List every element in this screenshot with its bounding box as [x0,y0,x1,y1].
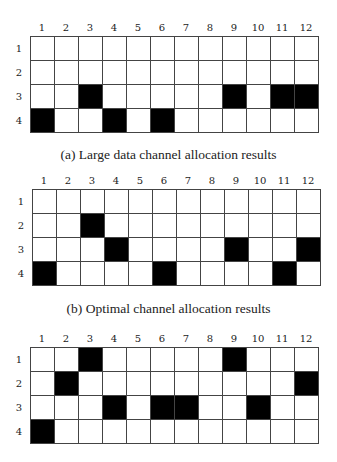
column-label: 10 [248,175,272,187]
empty-cell [57,262,81,286]
empty-cell [177,214,201,238]
empty-cell [79,61,103,85]
column-label: 3 [80,175,104,187]
empty-cell [175,61,199,85]
empty-cell [273,238,297,262]
allocated-cell [297,238,321,262]
empty-cell [177,190,201,214]
column-label: 2 [56,175,80,187]
column-label: 3 [78,333,102,345]
allocated-cell [33,262,57,286]
empty-cell [177,238,201,262]
empty-cell [175,37,199,61]
column-label: 6 [152,175,176,187]
empty-cell [33,190,57,214]
empty-cell [247,420,271,444]
empty-cell [79,109,103,133]
empty-cell [81,190,105,214]
empty-cell [247,61,271,85]
empty-cell [57,214,81,238]
empty-cell [105,214,129,238]
empty-cell [55,109,79,133]
row-label: 1 [12,36,26,60]
row-label: 1 [12,347,26,371]
empty-cell [153,214,177,238]
empty-cell [79,372,103,396]
allocated-cell [79,348,103,372]
row-label: 3 [14,237,28,261]
empty-cell [31,372,55,396]
column-label: 9 [222,22,246,34]
empty-cell [271,109,295,133]
empty-cell [55,37,79,61]
empty-cell [199,61,223,85]
column-label: 3 [78,22,102,34]
empty-cell [31,61,55,85]
empty-cell [55,420,79,444]
empty-cell [249,214,273,238]
empty-cell [103,348,127,372]
empty-cell [271,420,295,444]
empty-cell [57,190,81,214]
empty-cell [223,372,247,396]
empty-cell [297,262,321,286]
empty-cell [129,190,153,214]
empty-cell [129,214,153,238]
column-label: 1 [30,22,54,34]
empty-cell [103,37,127,61]
empty-cell [175,372,199,396]
empty-cell [81,238,105,262]
column-label: 10 [246,22,270,34]
empty-cell [79,396,103,420]
column-label: 1 [30,333,54,345]
empty-cell [223,420,247,444]
row-label: 4 [12,108,26,132]
row-label: 2 [12,371,26,395]
column-labels: 123456789101112 [30,333,318,345]
empty-cell [199,348,223,372]
allocated-cell [223,348,247,372]
empty-cell [201,262,225,286]
column-label: 7 [174,22,198,34]
empty-cell [225,190,249,214]
empty-cell [129,262,153,286]
row-label: 3 [12,395,26,419]
empty-cell [151,37,175,61]
column-label: 12 [294,333,318,345]
caption-a: (a) Large data channel allocation result… [0,147,337,163]
empty-cell [175,109,199,133]
allocated-cell [151,109,175,133]
empty-cell [33,214,57,238]
allocated-cell [31,109,55,133]
empty-cell [151,348,175,372]
empty-cell [199,85,223,109]
empty-cell [55,61,79,85]
empty-cell [273,214,297,238]
allocated-cell [55,372,79,396]
empty-cell [295,396,319,420]
column-label: 5 [126,333,150,345]
allocated-cell [31,420,55,444]
allocated-cell [105,238,129,262]
column-label: 9 [222,333,246,345]
empty-cell [177,262,201,286]
empty-cell [175,348,199,372]
empty-cell [151,372,175,396]
empty-cell [271,61,295,85]
allocated-cell [271,85,295,109]
column-label: 5 [128,175,152,187]
empty-cell [127,37,151,61]
empty-cell [295,109,319,133]
empty-cell [249,262,273,286]
row-label: 2 [14,213,28,237]
empty-cell [295,348,319,372]
allocated-cell [223,85,247,109]
row-labels: 1234 [12,347,26,443]
empty-cell [247,109,271,133]
empty-cell [271,37,295,61]
empty-cell [225,214,249,238]
column-label: 2 [54,333,78,345]
column-label: 5 [126,22,150,34]
empty-cell [249,238,273,262]
column-label: 8 [200,175,224,187]
